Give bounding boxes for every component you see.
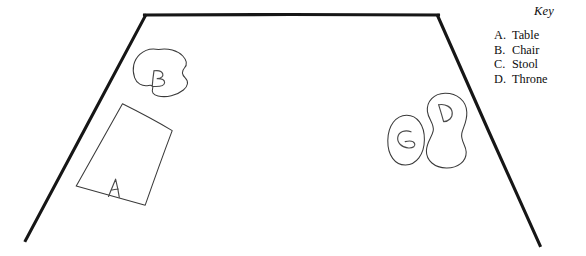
key-label-a: Table (512, 28, 584, 43)
floor-plan-diagram: Key A. Table B. Chair C. Stool D. Throne (0, 0, 586, 256)
key-label-d: Throne (512, 72, 584, 87)
label-b-glyph (152, 71, 164, 87)
throne-outline (426, 93, 466, 168)
key-letter-d: D. (494, 72, 512, 87)
shape-c-stool[interactable] (388, 115, 425, 165)
key-label-c: Stool (512, 57, 584, 72)
key-entry-a: A. Table (494, 28, 584, 43)
key-entry-c: C. Stool (494, 57, 584, 72)
key-legend: Key A. Table B. Chair C. Stool D. Throne (494, 4, 584, 86)
key-entry-b: B. Chair (494, 43, 584, 58)
shape-d-throne[interactable] (426, 93, 466, 168)
top-wall (145, 15, 439, 16)
key-letter-a: A. (494, 28, 512, 43)
label-d-glyph (439, 105, 453, 122)
shape-b-chair[interactable] (133, 49, 187, 97)
key-title: Key (494, 4, 584, 19)
key-entry-d: D. Throne (494, 72, 584, 87)
key-letter-c: C. (494, 57, 512, 72)
key-letter-b: B. (494, 43, 512, 58)
left-wall (26, 16, 146, 241)
label-c-glyph (398, 131, 415, 148)
stool-outline (388, 115, 425, 165)
chair-outline (133, 49, 187, 97)
label-a-glyph (109, 179, 120, 197)
key-label-b: Chair (512, 43, 584, 58)
